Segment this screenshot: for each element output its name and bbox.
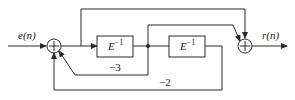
delay-block-2: E−1 (169, 36, 205, 57)
delay-block-1: E−1 (97, 36, 133, 57)
gain-outer-feedback: −2 (159, 76, 171, 88)
block-diagram: e(n) E−1 E−1 −3 −2 r(n) (0, 0, 295, 100)
output-label: r(n) (262, 29, 279, 42)
gain-inner-feedback: −3 (109, 61, 121, 73)
adder-1 (47, 39, 61, 53)
input-label: e(n) (18, 29, 36, 42)
adder-2 (238, 39, 252, 53)
